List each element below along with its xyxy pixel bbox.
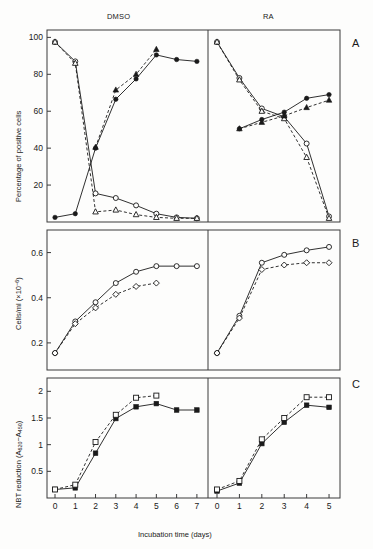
x-tick-label: 2 — [259, 501, 264, 511]
marker-open-square — [73, 482, 78, 487]
marker-open-triangle — [304, 154, 310, 159]
panel-b-ylabel-unit-exp: −6 — [14, 280, 20, 286]
panel-b-ylabel: Cells/ml (×10−6) — [14, 277, 23, 330]
chart-panel-b-dmso: 0.20.40.6 — [31, 248, 199, 356]
marker-open-square — [237, 478, 242, 483]
marker-filled-circle — [304, 96, 308, 100]
marker-open-square — [304, 395, 309, 400]
panel-c-ylabel-sub1: 620 — [17, 442, 23, 451]
marker-open-square — [259, 437, 264, 442]
y-tick-label: 80 — [34, 69, 44, 79]
marker-filled-triangle — [304, 104, 310, 109]
series-line-filled-square — [55, 404, 197, 490]
y-tick-label: 0.2 — [31, 338, 43, 348]
chart-panel-c-dmso: 012345670.511.52 — [31, 386, 199, 511]
x-tick-label: 3 — [113, 501, 118, 511]
series-line-open-square — [217, 397, 329, 489]
y-tick-label: 1.5 — [31, 413, 43, 423]
panel-a-ylabel: Percentage of positive cells — [14, 111, 23, 202]
chart-panel-a-dmso: 20406080100 — [29, 32, 200, 220]
marker-open-square — [215, 487, 220, 492]
panel-frame-a — [47, 30, 340, 222]
marker-filled-circle — [195, 59, 199, 63]
x-tick-label: 6 — [174, 501, 179, 511]
marker-open-diamond — [113, 291, 119, 297]
y-tick-label: 0.6 — [31, 248, 43, 258]
x-tick-label: 4 — [304, 501, 309, 511]
marker-filled-circle — [53, 215, 57, 219]
panel-c-ylabel-mid: −A — [14, 432, 23, 441]
y-tick-label: 40 — [34, 143, 44, 153]
marker-filled-square — [154, 401, 159, 406]
y-tick-label: 100 — [29, 32, 43, 42]
panel-b-ylabel-unit-close: ) — [14, 277, 23, 280]
marker-open-circle — [113, 281, 118, 286]
marker-filled-square — [327, 405, 332, 410]
series-line-filled-square — [217, 405, 329, 491]
y-tick-label: 20 — [34, 180, 44, 190]
series-line-open-diamond — [217, 263, 329, 353]
marker-open-circle — [304, 248, 309, 253]
x-tick-label: 3 — [282, 501, 287, 511]
marker-open-diamond — [52, 350, 58, 356]
marker-filled-circle — [174, 57, 178, 61]
x-tick-label: 1 — [237, 501, 242, 511]
marker-open-circle — [154, 264, 159, 269]
marker-filled-square — [93, 451, 98, 456]
marker-open-circle — [134, 269, 139, 274]
marker-filled-square — [304, 403, 309, 408]
marker-open-square — [327, 395, 332, 400]
y-tick-label: 0.5 — [31, 466, 43, 476]
y-tick-label: 0.4 — [31, 293, 43, 303]
x-tick-label: 1 — [73, 501, 78, 511]
marker-filled-circle — [134, 77, 138, 81]
marker-open-diamond — [133, 283, 139, 289]
marker-open-square — [93, 440, 98, 445]
x-tick-label: 0 — [215, 501, 220, 511]
series-line-filled-circle-ascending — [55, 55, 197, 217]
x-tick-label: 4 — [134, 501, 139, 511]
x-axis-label: Incubation time (days) — [138, 530, 212, 539]
marker-filled-triangle — [154, 46, 160, 51]
marker-open-square — [154, 393, 159, 398]
chart-panel-c-ra: 012345 — [215, 395, 332, 511]
series-line-open-diamond — [55, 283, 156, 353]
marker-open-diamond — [304, 260, 310, 266]
marker-filled-square — [134, 405, 139, 410]
figure-svg: 204060801000.20.40.6012345670.511.520123… — [0, 0, 373, 549]
marker-open-circle — [327, 244, 332, 249]
panel-letter-a: A — [352, 37, 360, 49]
marker-open-diamond — [153, 280, 159, 286]
marker-open-circle — [174, 264, 179, 269]
y-tick-label: 1 — [38, 440, 43, 450]
panel-c-ylabel: NBT reduction (A620−A450) — [14, 421, 23, 508]
marker-filled-triangle — [113, 87, 119, 92]
x-tick-label: 5 — [327, 501, 332, 511]
y-tick-label: 60 — [34, 106, 44, 116]
panel-letter-c: C — [352, 378, 360, 390]
marker-filled-triangle — [326, 97, 332, 102]
x-tick-label: 7 — [195, 501, 200, 511]
marker-filled-square — [195, 408, 200, 413]
figure-root: 204060801000.20.40.6012345670.511.520123… — [0, 0, 373, 549]
panel-c-ylabel-sub2: 450 — [17, 423, 23, 432]
marker-open-triangle — [93, 209, 99, 214]
column-title-dmso: DMSO — [107, 12, 130, 21]
panel-c-ylabel-close: ) — [14, 421, 23, 424]
marker-filled-circle — [154, 53, 158, 57]
x-tick-label: 5 — [154, 501, 159, 511]
column-title-ra: RA — [263, 12, 274, 21]
series-line-open-circle-descending — [217, 42, 329, 216]
marker-open-square — [113, 412, 118, 417]
marker-open-circle — [282, 252, 287, 257]
marker-filled-square — [174, 408, 179, 413]
marker-open-square — [134, 395, 139, 400]
marker-open-diamond — [326, 260, 332, 266]
marker-open-circle — [93, 191, 98, 196]
series-line-open-square — [55, 396, 156, 490]
chart-panel-a-ra — [214, 39, 332, 221]
marker-open-circle — [93, 300, 98, 305]
panel-frame-c — [47, 378, 340, 498]
x-tick-label: 0 — [53, 501, 58, 511]
chart-panel-b-ra — [214, 244, 332, 356]
